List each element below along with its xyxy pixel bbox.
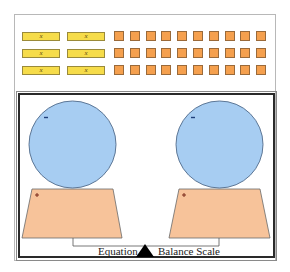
balance-scale-graphic	[0, 0, 290, 272]
right-sphere	[176, 101, 263, 188]
equation-label: Equation	[98, 245, 138, 257]
equation-balance-diagram: x x x x x x Equation Balance Scale	[0, 0, 290, 272]
left-sphere	[29, 101, 116, 188]
balance-scale-label: Balance Scale	[158, 245, 220, 257]
